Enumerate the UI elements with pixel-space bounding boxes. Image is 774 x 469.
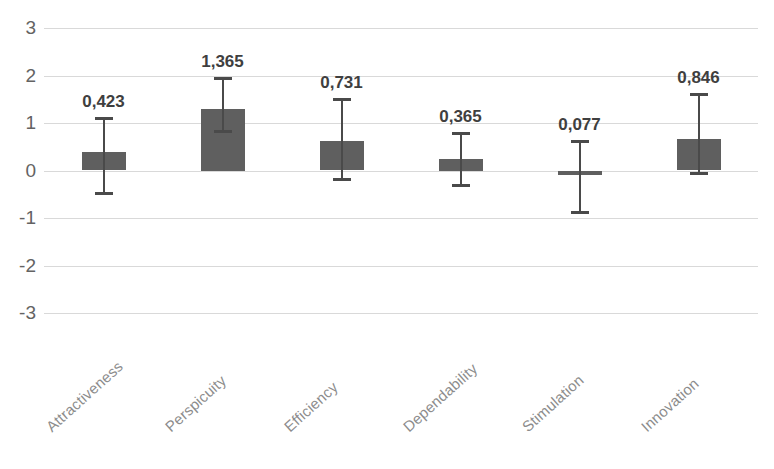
error-bar-cap-lower-innovation [690, 172, 708, 175]
error-bar-cap-upper-stimulation [571, 140, 589, 143]
gridline-2 [44, 76, 758, 77]
gridline-neg2 [44, 266, 758, 267]
error-bar-cap-lower-attractiveness [95, 192, 113, 195]
plot-area: 0,423Attractiveness1,365Perspicuity0,731… [0, 0, 774, 469]
error-bar-cap-upper-innovation [690, 93, 708, 96]
error-bar-cap-upper-dependability [452, 132, 470, 135]
x-axis-label-attractiveness: Attractiveness [42, 357, 125, 435]
gridline-1 [44, 123, 758, 124]
value-label-attractiveness: 0,423 [82, 92, 125, 112]
value-label-innovation: 0,846 [677, 68, 720, 88]
error-bar-line-attractiveness [103, 118, 105, 193]
error-bar-cap-upper-efficiency [333, 98, 351, 101]
gridline-0 [44, 171, 758, 172]
ueq-scale-bar-chart: 3210-1-2-3 0,423Attractiveness1,365Persp… [0, 0, 774, 469]
gridline-neg1 [44, 218, 758, 219]
error-bar-cap-lower-stimulation [571, 211, 589, 214]
x-axis-label-stimulation: Stimulation [518, 371, 586, 435]
error-bar-line-perspicuity [222, 78, 224, 131]
error-bar-line-stimulation [579, 141, 581, 212]
value-label-dependability: 0,365 [439, 107, 482, 127]
value-label-efficiency: 0,731 [320, 73, 363, 93]
error-bar-cap-upper-perspicuity [214, 77, 232, 80]
error-bar-line-dependability [460, 133, 462, 186]
error-bar-line-efficiency [341, 99, 343, 178]
x-axis-label-innovation: Innovation [637, 375, 701, 435]
error-bar-cap-lower-efficiency [333, 178, 351, 181]
value-label-stimulation: 0,077 [558, 115, 601, 135]
value-label-perspicuity: 1,365 [201, 52, 244, 72]
error-bar-cap-upper-attractiveness [95, 117, 113, 120]
gridline-neg3 [44, 313, 758, 314]
error-bar-cap-lower-perspicuity [214, 130, 232, 133]
x-axis-label-perspicuity: Perspicuity [161, 372, 229, 435]
x-axis-label-dependability: Dependability [399, 360, 480, 435]
error-bar-cap-lower-dependability [452, 184, 470, 187]
x-axis-label-efficiency: Efficiency [280, 378, 340, 435]
error-bar-line-innovation [698, 94, 700, 174]
gridline-3 [44, 28, 758, 29]
